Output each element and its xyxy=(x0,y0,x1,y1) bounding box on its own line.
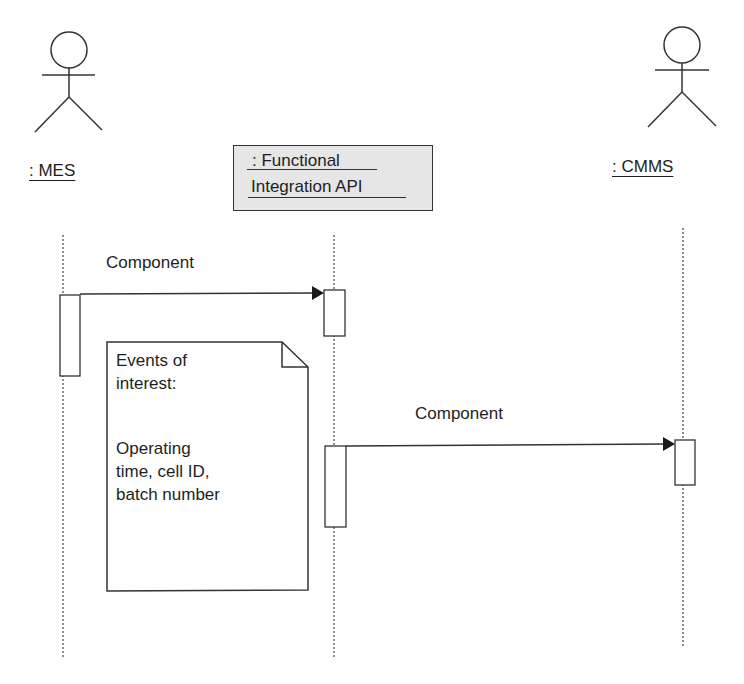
actor-mes-label: : MES xyxy=(29,161,75,181)
note-body-line2: time, cell ID, xyxy=(116,461,210,483)
activation-api-1 xyxy=(324,290,345,336)
actor-mes-left-leg xyxy=(35,97,69,132)
actor-mes-head xyxy=(51,32,87,68)
sequence-diagram-canvas xyxy=(0,0,744,684)
activation-api-2 xyxy=(325,446,346,527)
actor-mes-right-leg xyxy=(69,97,102,130)
activation-mes xyxy=(60,295,80,376)
actor-cmms-left-leg xyxy=(648,92,682,127)
actor-cmms-head xyxy=(664,27,700,63)
note-title-line1: Events of xyxy=(116,350,187,372)
message-1-label: Component xyxy=(106,253,194,273)
arrowhead-icon xyxy=(663,437,675,451)
arrowhead-icon xyxy=(312,286,324,300)
activation-cmms xyxy=(675,440,695,485)
actor-cmms-figure xyxy=(648,27,716,127)
note-body-line1: Operating xyxy=(116,438,191,460)
note-body-line3: batch number xyxy=(116,484,220,506)
object-api-underline-1 xyxy=(247,169,377,170)
message-2-label: Component xyxy=(415,404,503,424)
actor-cmms-right-leg xyxy=(682,92,716,126)
actor-mes-figure xyxy=(35,32,102,132)
object-api-underline-2 xyxy=(248,197,406,198)
message-2-arrow xyxy=(346,437,675,451)
actor-cmms-label: : CMMS xyxy=(612,157,673,177)
message-1-arrow xyxy=(80,286,324,300)
note-title-line2: interest: xyxy=(116,373,176,395)
object-api-label-line2: Integration API xyxy=(251,176,363,198)
